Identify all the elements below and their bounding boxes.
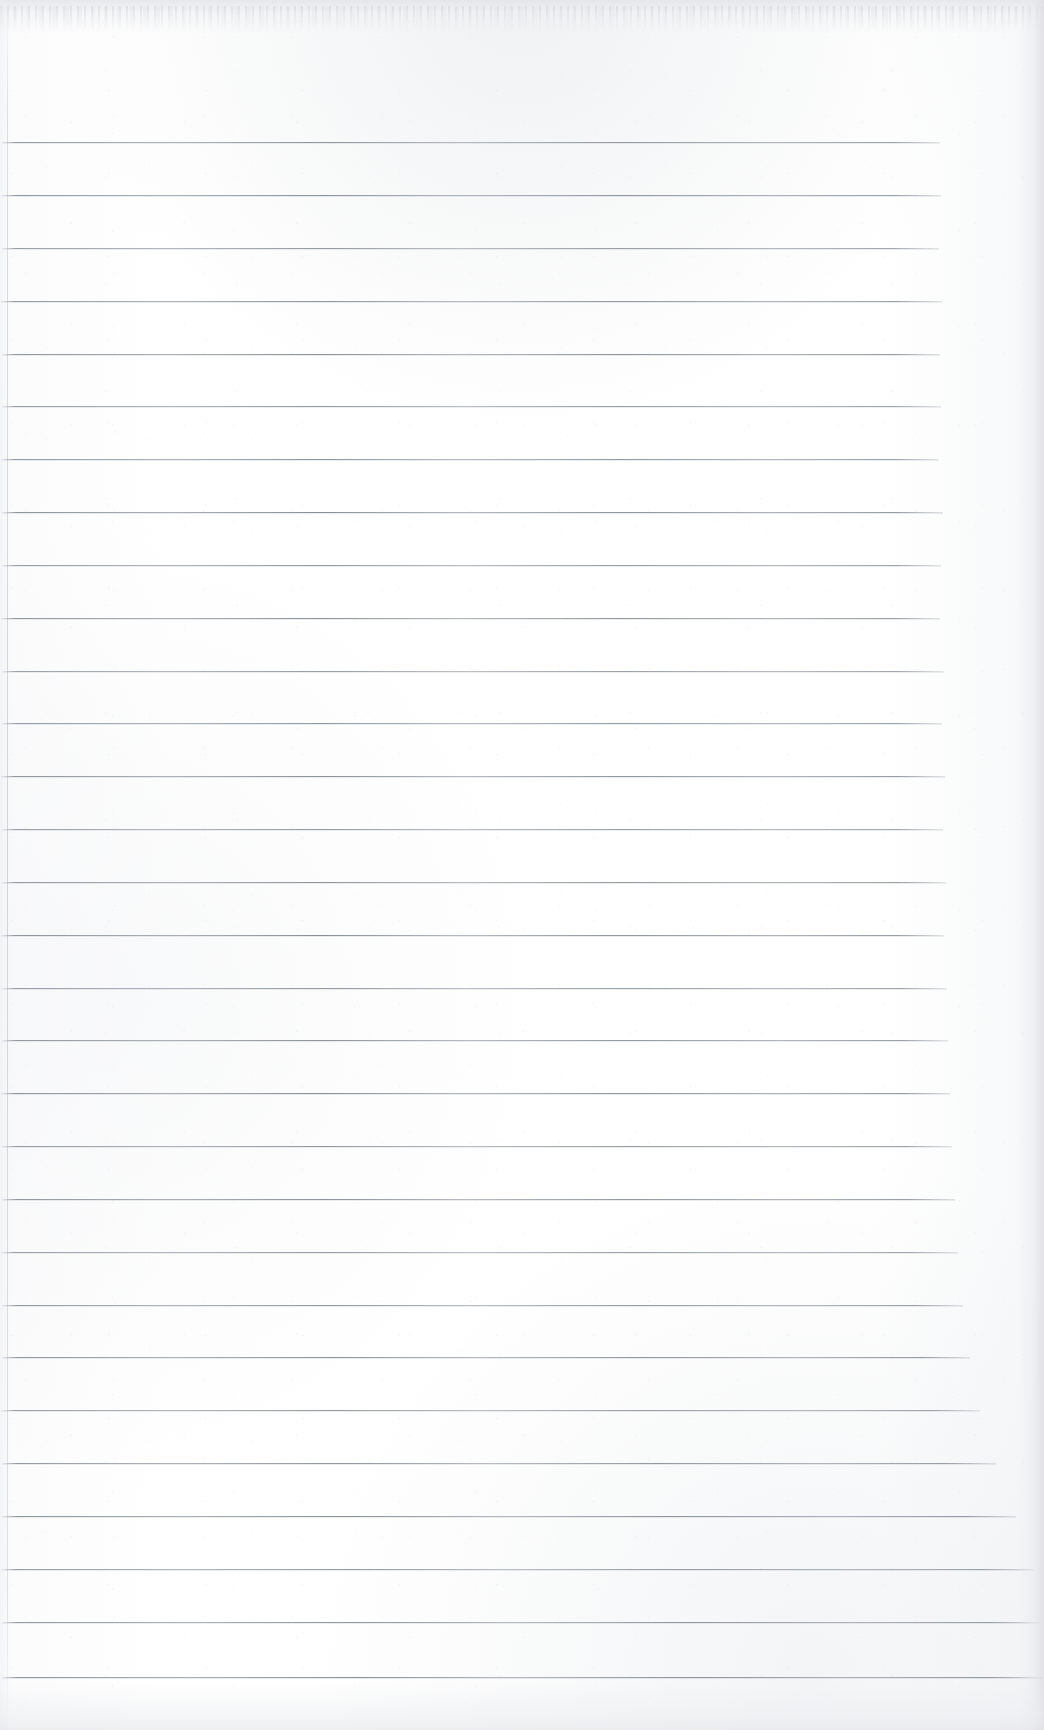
ruled-line [2,988,947,989]
ruled-line [2,512,943,513]
ruled-line [1,1093,950,1094]
bottom-page-edge-shadow [0,1684,1044,1730]
ruled-line [2,1622,1040,1623]
ruled-line [2,671,944,672]
ruled-line [2,1516,1016,1517]
ruled-line [2,1357,970,1358]
ruled-line [2,248,939,249]
ruled-line [2,1146,952,1147]
ruled-line [2,1305,963,1306]
ruled-line [1,1410,980,1411]
ruled-line [1,1569,1034,1570]
ruled-line [1,459,939,460]
ruled-line [2,1463,996,1464]
ruled-line [1,301,942,302]
ruled-line [2,565,941,566]
ruled-line [2,829,943,830]
left-page-edge-shadow [0,0,10,1730]
ruled-line [2,723,942,724]
ruled-line [1,1252,958,1253]
ruled-line [2,1199,955,1200]
right-page-edge-shadow [1018,0,1044,1730]
ruled-line [2,354,940,355]
ruled-line [2,1040,948,1041]
notebook-page [0,0,1044,1730]
ruled-line [2,1677,1042,1678]
ruled-line [1,618,940,619]
ruled-line [2,882,946,883]
ruled-line [1,935,944,936]
ruled-line [2,195,941,196]
ruled-line [2,142,940,143]
ruled-line [2,406,941,407]
ruled-lines-layer [0,0,1044,1730]
ruled-line [1,776,945,777]
